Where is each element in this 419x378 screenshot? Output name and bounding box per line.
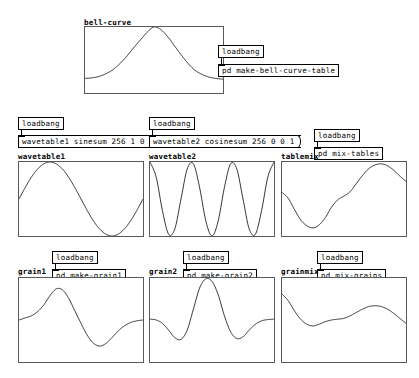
outlet-nub — [315, 141, 321, 143]
inlet-nub — [150, 135, 156, 137]
inlet-nub — [19, 135, 25, 137]
array-graph-grainmix[interactable] — [281, 277, 407, 363]
object-loadbang-wavetable1[interactable]: loadbang — [18, 117, 64, 130]
array-plot-grain2 — [150, 278, 274, 362]
array-label-wavetable1: wavetable1 — [18, 153, 65, 161]
outlet-nub — [318, 263, 324, 265]
array-graph-grain1[interactable] — [18, 277, 144, 363]
inlet-nub — [53, 269, 59, 271]
object-pd-mix-tables[interactable]: pd mix-tables — [314, 147, 383, 160]
message-label: wavetable2 cosinesum 256 0 0 1 — [153, 137, 294, 146]
array-graph-wavetable1[interactable] — [18, 161, 144, 237]
inlet-nub — [219, 64, 225, 66]
object-label: loadbang — [22, 119, 60, 128]
outlet-nub — [53, 263, 59, 265]
pd-patch-canvas: bell-curve loadbang pd make-bell-curve-t… — [0, 0, 419, 378]
outlet-nub — [184, 263, 190, 265]
message-wavetable2-cosinesum[interactable]: wavetable2 cosinesum 256 0 0 1 — [149, 135, 301, 148]
object-label: loadbang — [222, 47, 260, 56]
outlet-nub — [150, 129, 156, 131]
object-loadbang-grainmix[interactable]: loadbang — [317, 251, 363, 264]
message-wavetable1-sinesum[interactable]: wavetable1 sinesum 256 1 0 — [18, 135, 152, 148]
array-label-grainmix: grainmix — [281, 268, 319, 276]
array-plot-tablemix — [282, 162, 406, 236]
array-graph-wavetable2[interactable] — [149, 161, 275, 237]
object-label: loadbang — [187, 253, 225, 262]
array-label-tablemix: tablemix — [281, 153, 319, 161]
inlet-nub — [184, 269, 190, 271]
array-label-wavetable2: wavetable2 — [149, 153, 196, 161]
array-plot-bell-curve — [85, 27, 223, 93]
array-graph-grain2[interactable] — [149, 277, 275, 363]
object-loadbang-tablemix[interactable]: loadbang — [314, 129, 360, 142]
object-pd-make-bell-curve-table[interactable]: pd make-bell-curve-table — [218, 64, 339, 77]
object-label: loadbang — [56, 253, 94, 262]
array-plot-wavetable1 — [19, 162, 143, 236]
inlet-nub — [315, 147, 321, 149]
object-loadbang-grain1[interactable]: loadbang — [52, 251, 98, 264]
array-graph-tablemix[interactable] — [281, 161, 407, 237]
object-label: loadbang — [318, 131, 356, 140]
array-label-grain1: grain1 — [18, 268, 46, 276]
object-loadbang-wavetable2[interactable]: loadbang — [149, 117, 195, 130]
outlet-nub — [19, 129, 25, 131]
object-loadbang-bell-curve[interactable]: loadbang — [218, 45, 264, 58]
object-loadbang-grain2[interactable]: loadbang — [183, 251, 229, 264]
object-label: pd make-bell-curve-table — [222, 66, 335, 75]
array-plot-wavetable2 — [150, 162, 274, 236]
array-label-grain2: grain2 — [149, 268, 177, 276]
object-label: loadbang — [321, 253, 359, 262]
object-label: pd mix-tables — [318, 149, 379, 158]
array-graph-bell-curve[interactable] — [84, 26, 224, 94]
array-plot-grainmix — [282, 278, 406, 362]
array-plot-grain1 — [19, 278, 143, 362]
message-label: wavetable1 sinesum 256 1 0 — [22, 137, 145, 146]
outlet-nub — [219, 57, 225, 59]
object-label: loadbang — [153, 119, 191, 128]
